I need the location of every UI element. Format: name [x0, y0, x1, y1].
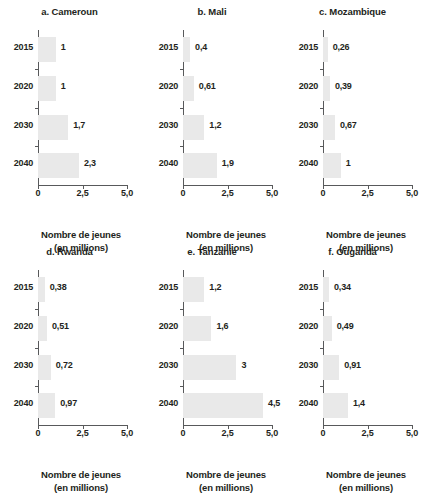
- bar-value-label: 1,4: [353, 398, 365, 408]
- bar-value-label: 1,7: [73, 120, 85, 130]
- bar-row: 20301,7: [38, 108, 127, 147]
- bar-value-label: 1: [61, 81, 66, 91]
- bar: [323, 393, 348, 418]
- plot-area: 20150,3420200,4920300,9120401,402,55,0No…: [323, 270, 412, 425]
- bar-row: 20200,39: [323, 69, 412, 108]
- x-axis-title-line1: Nombre de jeunes: [151, 469, 301, 482]
- x-tick-label: 2,5: [362, 428, 374, 438]
- x-tick-label: 5,0: [406, 188, 418, 198]
- year-label: 2040: [159, 398, 178, 408]
- bar-row: 20303: [183, 348, 272, 387]
- bar-row: 20401,4: [323, 386, 412, 425]
- bar: [323, 37, 328, 62]
- bar: [323, 277, 329, 302]
- x-tick-label: 0: [181, 188, 186, 198]
- bar: [183, 355, 236, 380]
- x-axis-title: Nombre de jeunes(en millions): [151, 469, 301, 494]
- panel-title: d. Rwanda: [0, 246, 139, 257]
- x-tick-label: 0: [36, 188, 41, 198]
- x-tick-label: 5,0: [266, 428, 278, 438]
- panel-4: d. Rwanda20150,3820200,5120300,7220400,9…: [0, 240, 145, 484]
- bar: [38, 153, 79, 178]
- year-label: 2015: [299, 42, 318, 52]
- year-label: 2040: [159, 158, 178, 168]
- bar: [323, 316, 332, 341]
- panel-2: b. Mali20150,420200,6120301,220401,902,5…: [145, 0, 285, 240]
- bar-value-label: 2,3: [84, 158, 96, 168]
- x-tick-label: 0: [36, 428, 41, 438]
- x-axis-title-line1: Nombre de jeunes: [6, 469, 156, 482]
- bar-row: 20401,9: [183, 146, 272, 185]
- bar: [38, 393, 55, 418]
- x-tick-label: 2,5: [77, 428, 89, 438]
- year-label: 2030: [14, 120, 33, 130]
- bar-row: 20201,6: [183, 309, 272, 348]
- x-tick-label: 5,0: [121, 188, 133, 198]
- year-label: 2020: [14, 321, 33, 331]
- year-label: 2030: [159, 360, 178, 370]
- bar: [38, 277, 45, 302]
- panel-title: a. Cameroun: [0, 6, 139, 17]
- bar-row: 20151,2: [183, 270, 272, 309]
- bar-value-label: 0,4: [195, 42, 207, 52]
- year-label: 2015: [159, 282, 178, 292]
- bar-value-label: 1,6: [216, 321, 228, 331]
- bar: [183, 277, 204, 302]
- plot-area: 20151,220201,62030320404,502,55,0Nombre …: [183, 270, 272, 425]
- year-label: 2020: [14, 81, 33, 91]
- bar-value-label: 1,2: [209, 282, 221, 292]
- panel-5: e. Tanzanie20151,220201,62030320404,502,…: [145, 240, 285, 484]
- x-tick-label: 2,5: [222, 188, 234, 198]
- bar-row: 20150,26: [323, 30, 412, 69]
- bar-value-label: 0,91: [344, 360, 361, 370]
- panel-1: a. Cameroun201512020120301,720402,302,55…: [0, 0, 145, 240]
- bar: [183, 37, 190, 62]
- bar-row: 20300,72: [38, 348, 127, 387]
- x-axis-title-line2: (en millions): [151, 482, 301, 494]
- bar: [38, 115, 68, 140]
- bar-value-label: 1,2: [209, 120, 221, 130]
- bar-value-label: 0,67: [340, 120, 357, 130]
- year-label: 2040: [299, 398, 318, 408]
- bar-row: 20151: [38, 30, 127, 69]
- bar: [183, 153, 217, 178]
- x-tick-label: 5,0: [121, 428, 133, 438]
- bar-value-label: 1: [61, 42, 66, 52]
- bar: [323, 76, 330, 101]
- bar-row: 20150,34: [323, 270, 412, 309]
- bar: [323, 115, 335, 140]
- bar: [183, 115, 204, 140]
- bar: [38, 37, 56, 62]
- bar-value-label: 3: [241, 360, 246, 370]
- bar-value-label: 0,51: [52, 321, 69, 331]
- year-label: 2030: [299, 360, 318, 370]
- x-tick-label: 2,5: [77, 188, 89, 198]
- bar: [323, 153, 341, 178]
- bar-value-label: 0,38: [50, 282, 67, 292]
- x-axis-title: Nombre de jeunes(en millions): [291, 469, 426, 494]
- bar-value-label: 1: [346, 158, 351, 168]
- plot-area: 20150,2620200,3920300,672040102,55,0Nomb…: [323, 30, 412, 185]
- x-tick-label: 5,0: [266, 188, 278, 198]
- year-label: 2040: [14, 398, 33, 408]
- bar-value-label: 4,5: [268, 398, 280, 408]
- bar: [183, 316, 211, 341]
- panel-6: f. Ouganda20150,3420200,4920300,9120401,…: [285, 240, 426, 484]
- bar-value-label: 0,26: [333, 42, 350, 52]
- year-label: 2040: [299, 158, 318, 168]
- year-label: 2015: [159, 42, 178, 52]
- x-tick-label: 2,5: [222, 428, 234, 438]
- x-tick-label: 0: [321, 428, 326, 438]
- bar-row: 20150,4: [183, 30, 272, 69]
- bar-row: 20404,5: [183, 386, 272, 425]
- year-label: 2020: [299, 321, 318, 331]
- bar-row: 20401: [323, 146, 412, 185]
- x-tick-label: 0: [181, 428, 186, 438]
- bar-row: 20400,97: [38, 386, 127, 425]
- bar-row: 20150,38: [38, 270, 127, 309]
- bar-value-label: 1,9: [222, 158, 234, 168]
- panel-title: f. Ouganda: [285, 246, 420, 257]
- x-axis-title-line2: (en millions): [291, 482, 426, 494]
- bar-row: 20201: [38, 69, 127, 108]
